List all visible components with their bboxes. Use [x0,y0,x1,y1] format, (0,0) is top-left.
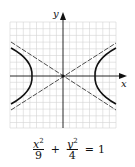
equation-rhs: 1 [98,143,105,156]
equation-caption: x2 9 + y2 4 = 1 [0,132,135,166]
hyperbola-graph: y x [0,0,135,132]
plus-operator: + [51,143,60,156]
origin-point [61,74,64,77]
axes [10,17,121,128]
y-axis-arrow-icon [60,12,66,20]
x-axis-label: x [121,78,127,89]
y-axis-label: y [52,8,59,19]
fraction-y: y2 4 [66,136,79,163]
equals-sign: = [85,143,94,156]
fraction-x: x2 9 [32,136,45,163]
